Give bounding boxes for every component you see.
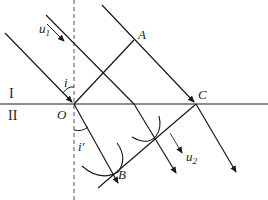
incident-ray-3 (102, 5, 194, 102)
label-A: A (138, 28, 146, 41)
label-i: i (64, 76, 68, 89)
label-O: O (57, 108, 66, 121)
label-C: C (198, 88, 207, 101)
refraction-diagram: A C O B i i′ I II u1 u2 (0, 0, 268, 200)
refracted-wavefront-BC (98, 104, 196, 188)
incident-ray-2 (46, 15, 134, 104)
label-medium-I: I (9, 87, 14, 101)
label-u2: u2 (186, 150, 197, 166)
incident-ray-1 (5, 33, 72, 102)
label-medium-II: II (8, 109, 17, 123)
label-B: B (118, 168, 126, 181)
wavelet-arc-2 (132, 116, 160, 141)
label-u1: u1 (39, 22, 50, 38)
angle-i-prime-arc (74, 127, 88, 131)
label-i-prime: i′ (78, 140, 84, 153)
refracted-ray-3 (196, 104, 236, 172)
wavelet-arc-1 (82, 143, 123, 176)
u2-arrow (170, 133, 182, 153)
